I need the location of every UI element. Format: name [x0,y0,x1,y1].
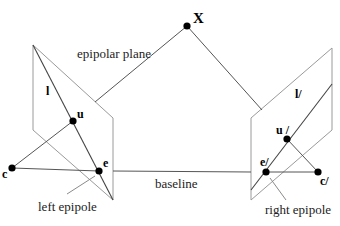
label-left-epipole: left epipole [38,199,97,214]
right-epipole-pointer [270,178,286,200]
baseline-line [12,168,99,171]
label-u-prime: u / [276,123,290,137]
point-u [69,117,76,124]
left-epipole-pointer [67,176,95,194]
label-c-prime: c/ [320,174,329,188]
label-l: l [46,84,50,98]
label-baseline: baseline [155,176,198,191]
label-e-prime: e/ [260,155,269,169]
label-x: X [193,10,204,26]
label-e: e [103,156,109,170]
label-c: c [2,167,8,181]
label-right-epipole: right epipole [265,202,331,217]
baseline-line-mid [113,171,251,172]
label-epipolar-plane: epipolar plane [77,46,151,61]
ray-x-to-left [95,26,187,102]
ray-cprime-to-uprime [287,139,318,172]
point-c [8,164,15,171]
point-e-prime [262,168,269,175]
label-l-prime: l/ [295,87,302,101]
epipolar-geometry-diagram: X epipolar plane l u c e baseline left e… [0,0,340,226]
point-e [95,167,102,174]
ray-x-to-right [187,26,262,110]
point-x [183,22,190,29]
label-u: u [77,107,84,121]
ray-c-to-u [12,121,73,168]
